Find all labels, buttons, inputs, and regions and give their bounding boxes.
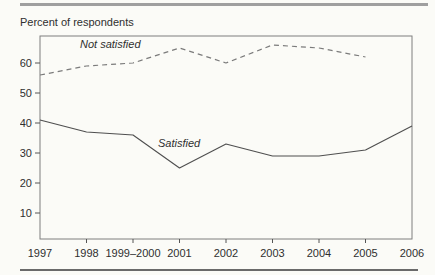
x-tick-label: 2002	[214, 247, 238, 259]
y-tick-label: 60	[20, 57, 32, 69]
line-chart-svg: 102030405060199719981999–200020012002200…	[20, 30, 435, 265]
plot-frame	[40, 36, 412, 239]
x-tick-label: 2006	[400, 247, 424, 259]
series-line-satisfied	[40, 120, 412, 168]
top-rule	[20, 3, 428, 6]
series-label-satisfied: Satisfied	[158, 137, 200, 149]
x-tick-label: 2001	[167, 247, 191, 259]
chart-title: Percent of respondents	[20, 16, 134, 28]
bottom-rule	[20, 269, 418, 271]
x-tick-label: 2004	[307, 247, 331, 259]
y-tick-label: 40	[20, 117, 32, 129]
x-tick-label: 1997	[28, 247, 52, 259]
chart-page: Percent of respondents 10203040506019971…	[0, 0, 435, 275]
x-tick-label: 1998	[74, 247, 98, 259]
y-tick-label: 20	[20, 177, 32, 189]
y-tick-label: 10	[20, 207, 32, 219]
x-tick-label: 2005	[353, 247, 377, 259]
series-label-not-satisfied: Not satisfied	[80, 38, 141, 50]
x-tick-label: 2003	[260, 247, 284, 259]
y-tick-label: 30	[20, 147, 32, 159]
x-tick-label: 1999–2000	[105, 247, 160, 259]
y-tick-label: 50	[20, 87, 32, 99]
